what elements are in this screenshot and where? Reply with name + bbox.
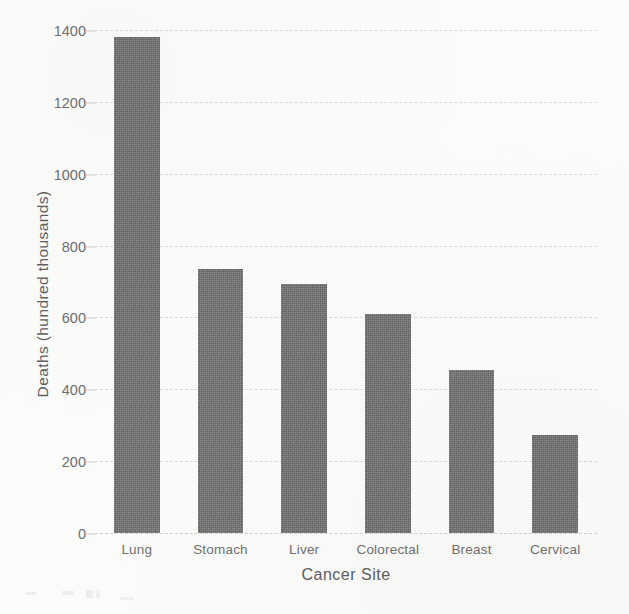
x-tick-label: Lung xyxy=(121,542,152,557)
y-tick-mark xyxy=(86,174,95,175)
y-tick-label: 400 xyxy=(62,382,86,398)
bar-group: Liver xyxy=(281,30,327,533)
y-tick-mark xyxy=(86,318,95,319)
y-tick-label: 0 xyxy=(78,526,86,542)
y-tick-mark xyxy=(86,246,95,247)
bar-chart-figure: Deaths (hundred thousands) 0200400600800… xyxy=(0,0,629,614)
y-tick-label: 1200 xyxy=(54,95,86,111)
bar-group: Colorectal xyxy=(365,30,411,533)
bar[interactable] xyxy=(198,269,244,533)
scan-artifact-mark xyxy=(86,590,93,598)
bar[interactable] xyxy=(114,37,160,533)
x-tick-label: Liver xyxy=(289,542,319,557)
bar-group: Cervical xyxy=(532,30,578,533)
plot-area: 0200400600800100012001400 LungStomachLiv… xyxy=(95,30,597,533)
scan-artifact-mark xyxy=(26,592,36,595)
y-tick-mark xyxy=(86,390,95,391)
bar-group: Breast xyxy=(449,30,495,533)
bar[interactable] xyxy=(365,314,411,533)
bar[interactable] xyxy=(281,284,327,533)
scan-artifact-mark xyxy=(96,591,100,598)
y-tick-label: 600 xyxy=(62,310,86,326)
y-tick-mark xyxy=(86,534,95,535)
x-tick-label: Stomach xyxy=(193,542,248,557)
y-axis-title: Deaths (hundred thousands) xyxy=(34,129,52,459)
bar[interactable] xyxy=(532,435,578,533)
bar[interactable] xyxy=(449,370,495,533)
scan-artifact-mark xyxy=(62,591,74,595)
y-tick-label: 200 xyxy=(62,454,86,470)
y-tick-mark xyxy=(86,462,95,463)
bar-group: Stomach xyxy=(198,30,244,533)
scan-artifact-marks xyxy=(0,588,180,610)
bar-group: Lung xyxy=(114,30,160,533)
x-tick-label: Breast xyxy=(451,542,491,557)
y-tick-label: 800 xyxy=(62,239,86,255)
bars-group: LungStomachLiverColorectalBreastCervical xyxy=(95,30,597,533)
y-tick-label: 1000 xyxy=(54,167,86,183)
x-tick-label: Cervical xyxy=(530,542,580,557)
y-tick-mark xyxy=(86,31,95,32)
x-tick-label: Colorectal xyxy=(356,542,419,557)
scan-artifact-mark xyxy=(120,597,134,600)
y-tick-label: 1400 xyxy=(54,23,86,39)
x-axis-title: Cancer Site xyxy=(95,566,597,584)
gridline: 0 xyxy=(95,533,597,534)
y-tick-mark xyxy=(86,102,95,103)
